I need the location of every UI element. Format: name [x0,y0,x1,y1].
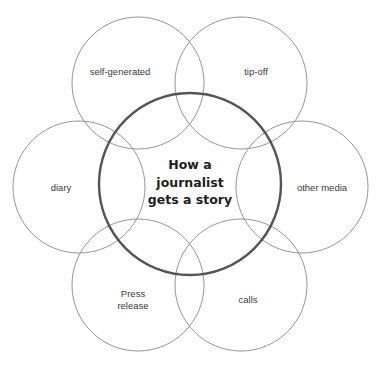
center-title-line-1: How a [148,156,232,174]
center-title: How a journalist gets a story [148,156,232,209]
label-diary: diary [51,182,72,194]
label-other-media: other media [297,182,347,194]
circle-press-release [72,219,204,351]
center-title-line-2: journalist [148,173,232,191]
label-tip-off: tip-off [244,66,268,78]
label-self-generated: self-generated [90,66,151,78]
label-press-release-line-2: release [117,299,148,311]
label-press-release: Press release [117,288,148,311]
label-press-release-line-1: Press [117,288,148,300]
label-calls: calls [238,294,257,306]
circle-calls [175,219,307,351]
center-title-line-3: gets a story [148,191,232,209]
circle-self-generated [72,17,204,149]
circle-tip-off [175,17,307,149]
circle-diary [13,121,145,253]
